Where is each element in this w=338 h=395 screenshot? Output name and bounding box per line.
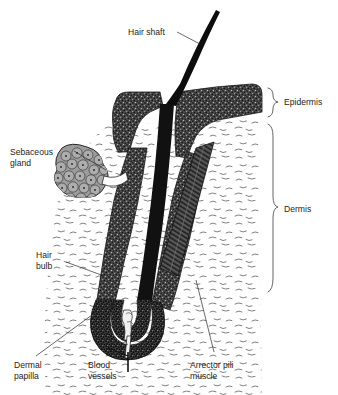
label-blood-vessels-line1: Blood [88,360,110,370]
label-dermal-papilla-line1: Dermal [14,360,42,370]
label-arrector-pili-line2: muscle [190,371,217,381]
label-hair-bulb-line2: bulb [36,261,52,271]
label-dermis: Dermis [284,204,311,214]
label-sebaceous-gland-line1: Sebaceous [10,147,53,157]
label-epidermis: Epidermis [284,97,322,107]
hair-follicle-diagram: Hair shaft Sebaceous gland Hair bulb Der… [0,0,338,395]
label-hair-shaft: Hair shaft [128,27,165,37]
label-hair-bulb-line1: Hair [36,250,52,260]
label-arrector-pili-line1: Arrector pili [190,360,234,370]
label-sebaceous-gland-line2: gland [10,158,31,168]
label-blood-vessels-line2: vessels [88,371,117,381]
label-dermal-papilla-line2: papilla [14,371,39,381]
